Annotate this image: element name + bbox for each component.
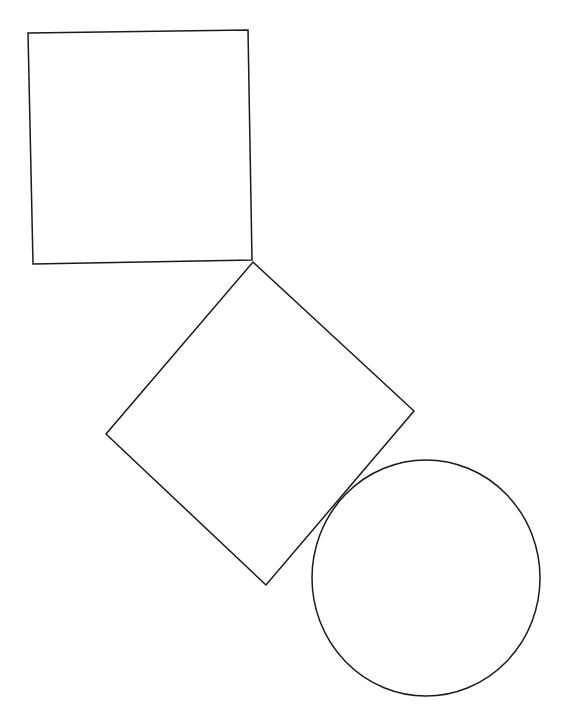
square-shape — [28, 30, 252, 264]
circle-shape — [312, 460, 540, 696]
diamond-shape — [106, 262, 414, 585]
diagram-canvas — [0, 0, 571, 716]
